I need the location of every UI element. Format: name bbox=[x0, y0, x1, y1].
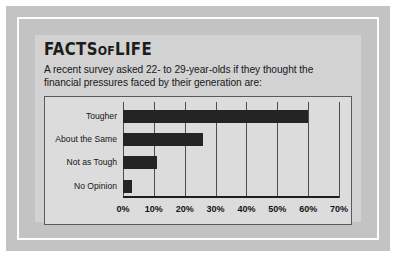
value-tick-label: 60% bbox=[299, 204, 317, 214]
bar bbox=[123, 133, 203, 146]
category-label: No Opinion bbox=[74, 180, 117, 193]
outer-frame-band: FACTSOFLIFE A recent survey asked 22- to… bbox=[6, 6, 390, 251]
survey-description: A recent survey asked 22- to 29-year-old… bbox=[44, 63, 352, 90]
plot-area bbox=[123, 105, 339, 198]
value-tick-label: 70% bbox=[330, 204, 348, 214]
value-axis-labels: 0%10%20%30%40%50%60%70% bbox=[123, 204, 339, 218]
bar bbox=[123, 180, 132, 193]
gridline bbox=[339, 102, 340, 198]
category-label: Tougher bbox=[86, 110, 117, 123]
bar bbox=[123, 110, 308, 123]
facts-of-life-panel: FACTSOFLIFE A recent survey asked 22- to… bbox=[0, 0, 396, 257]
value-tick-label: 0% bbox=[116, 204, 129, 214]
value-tick-label: 40% bbox=[237, 204, 255, 214]
category-axis-labels: TougherAbout the SameNot as ToughNo Opin… bbox=[45, 105, 121, 198]
survey-description-line-1: A recent survey asked 22- to 29-year-old… bbox=[44, 64, 313, 75]
title-part-life: LIFE bbox=[115, 39, 152, 59]
page-title: FACTSOFLIFE bbox=[44, 41, 315, 59]
value-tick-label: 10% bbox=[145, 204, 163, 214]
value-tick-label: 50% bbox=[268, 204, 286, 214]
bar-series bbox=[123, 105, 339, 198]
value-tick-label: 30% bbox=[207, 204, 225, 214]
title-part-of: OF bbox=[98, 43, 115, 58]
category-label: Not as Tough bbox=[67, 156, 117, 169]
bar-chart: TougherAbout the SameNot as ToughNo Opin… bbox=[44, 96, 352, 225]
value-tick-label: 20% bbox=[176, 204, 194, 214]
category-label: About the Same bbox=[55, 133, 117, 146]
bar bbox=[123, 156, 157, 169]
value-axis-line bbox=[123, 196, 339, 198]
content-card: FACTSOFLIFE A recent survey asked 22- to… bbox=[35, 35, 361, 222]
survey-description-line-2: financial pressures faced by their gener… bbox=[44, 77, 262, 88]
inner-frame-rule: FACTSOFLIFE A recent survey asked 22- to… bbox=[17, 17, 379, 240]
title-part-facts: FACTS bbox=[44, 39, 98, 59]
